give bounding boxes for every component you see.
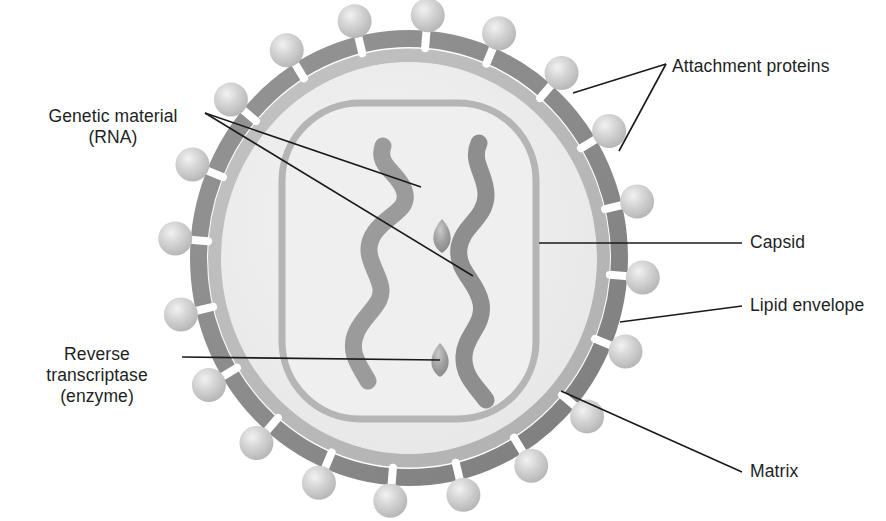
- label-attachment-proteins: Attachment proteins: [672, 56, 830, 77]
- leader-line-lipid-envelope: [620, 306, 742, 322]
- attachment-protein-sphere: [338, 4, 372, 38]
- figure-canvas: Attachment proteins Genetic material (RN…: [0, 0, 886, 521]
- attachment-protein-sphere: [158, 222, 192, 256]
- attachment-protein-sphere: [373, 484, 407, 518]
- label-reverse-transcriptase: Reverse transcriptase (enzyme): [8, 344, 186, 407]
- attachment-protein-sphere: [545, 56, 579, 90]
- label-capsid: Capsid: [750, 232, 805, 253]
- attachment-protein-sphere: [175, 147, 209, 181]
- attachment-protein-sphere: [592, 114, 626, 148]
- label-lipid-envelope: Lipid envelope: [750, 295, 864, 316]
- attachment-protein-sphere: [620, 185, 654, 219]
- attachment-protein-sphere: [302, 466, 336, 500]
- attachment-protein-sphere: [514, 449, 548, 483]
- attachment-protein-sphere: [192, 368, 226, 402]
- attachment-protein-sphere: [164, 297, 198, 331]
- attachment-protein-sphere: [239, 426, 273, 460]
- attachment-protein-sphere: [570, 399, 604, 433]
- virus-diagram: [0, 0, 886, 521]
- capsid-outline: [282, 103, 536, 419]
- label-genetic-material: Genetic material (RNA): [18, 106, 208, 148]
- attachment-protein-sphere: [411, 0, 445, 32]
- label-matrix: Matrix: [750, 461, 798, 482]
- attachment-protein-sphere: [482, 16, 516, 50]
- attachment-protein-sphere: [626, 260, 660, 294]
- attachment-protein-sphere: [609, 335, 643, 369]
- attachment-protein-sphere: [270, 33, 304, 67]
- attachment-protein-sphere: [446, 478, 480, 512]
- attachment-protein-sphere: [214, 83, 248, 117]
